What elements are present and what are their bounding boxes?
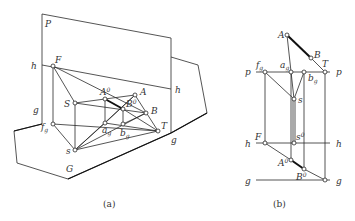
point-A0 [103, 97, 107, 101]
point-A [285, 33, 289, 37]
label-P: P [44, 19, 52, 29]
ground-plane-back-edge [171, 57, 207, 133]
label-h-left: h [245, 139, 251, 149]
point-A0 [289, 158, 293, 162]
label-h-right: h [336, 139, 342, 149]
figure-b: A B p p fg ag bg T s F s0 h h A0 B0 g g … [245, 30, 342, 209]
caption-a: (a) [103, 199, 115, 209]
label-ag: ag [280, 60, 289, 72]
point-g [323, 178, 327, 182]
label-fg: fg [40, 122, 48, 134]
label-A: A [277, 30, 285, 40]
label-F: F [254, 132, 262, 142]
point-bg [302, 70, 306, 74]
point-T [323, 70, 327, 74]
line-B0-g [304, 169, 325, 180]
point-T [156, 129, 160, 133]
perspective-projection-diagram: P h h g g F S fg s G A0 A B0 B ag bg T (… [0, 0, 355, 221]
point-B [144, 111, 148, 115]
label-g-left: g [33, 105, 39, 115]
label-bg: bg [120, 128, 130, 140]
line-A-B [287, 35, 311, 58]
point-fg [51, 122, 55, 126]
point-F [263, 141, 267, 145]
label-A0: A0 [277, 157, 289, 168]
label-B: B [313, 50, 321, 60]
label-F: F [54, 55, 62, 65]
ground-line-left [14, 124, 42, 131]
label-bg: bg [308, 73, 318, 85]
point-s [292, 97, 296, 101]
ground-plane-outline [14, 124, 171, 179]
line-fg-s [265, 72, 294, 99]
label-g-right: g [171, 135, 177, 145]
label-fg: fg [255, 60, 263, 72]
point-fg [263, 70, 267, 74]
label-g-right: g [336, 176, 342, 186]
label-s: s [66, 146, 71, 156]
label-T: T [161, 121, 168, 131]
label-G: G [66, 164, 73, 174]
label-p-right: p [336, 67, 342, 77]
point-bg [121, 122, 125, 126]
label-T: T [322, 59, 329, 69]
label-B: B [150, 106, 158, 116]
label-g-left: g [245, 176, 251, 186]
point-A [133, 93, 137, 97]
label-s0: s0 [296, 131, 305, 142]
label-p-left: p [245, 67, 251, 77]
figure-a: P h h g g F S fg s G A0 A B0 B ag bg T (… [14, 14, 207, 209]
point-B [309, 56, 313, 60]
point-s [73, 148, 77, 152]
line-s-T [75, 131, 158, 150]
label-h-left: h [31, 61, 37, 71]
label-A0: A0 [99, 86, 111, 97]
caption-b: (b) [273, 199, 286, 209]
point-B0 [121, 107, 125, 111]
label-S: S [64, 99, 70, 109]
label-s: s [298, 95, 303, 105]
point-S [73, 101, 77, 105]
point-ag [289, 70, 293, 74]
line-B-bg [123, 113, 146, 124]
label-h-right: h [175, 85, 181, 95]
ground-line-right [171, 113, 207, 133]
line-fg-s [53, 124, 75, 150]
label-A: A [139, 87, 147, 97]
